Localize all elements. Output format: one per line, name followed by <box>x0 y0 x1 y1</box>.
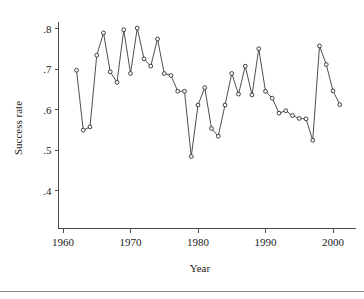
success-rate-line-chart: .4.5.6.7.8 19601970198019902000 Success … <box>0 0 364 299</box>
data-point <box>223 103 227 107</box>
data-series <box>77 28 340 156</box>
data-point <box>277 111 281 115</box>
data-point <box>115 80 119 84</box>
x-tick-label: 1960 <box>52 236 75 248</box>
data-point <box>324 63 328 67</box>
data-point <box>129 72 133 76</box>
x-tick-label: 1990 <box>255 236 278 248</box>
data-point <box>297 117 301 121</box>
data-point <box>142 57 146 61</box>
data-point <box>156 37 160 41</box>
data-point <box>189 155 193 159</box>
data-point <box>237 92 241 96</box>
y-tick-label: .4 <box>43 185 52 197</box>
chart-figure: .4.5.6.7.8 19601970198019902000 Success … <box>0 0 364 299</box>
data-point <box>102 31 106 35</box>
y-tick-label: .5 <box>43 144 52 156</box>
data-point <box>88 125 92 129</box>
series-line-success-rate <box>77 28 340 156</box>
data-markers <box>75 26 342 158</box>
data-point <box>311 138 315 142</box>
data-point <box>162 72 166 76</box>
data-point <box>149 64 153 68</box>
data-point <box>216 134 220 138</box>
data-point <box>250 93 254 97</box>
data-point <box>230 72 234 76</box>
data-point <box>183 89 187 93</box>
data-point <box>135 26 139 30</box>
data-point <box>210 127 214 131</box>
data-point <box>338 103 342 107</box>
data-point <box>176 89 180 93</box>
data-point <box>264 89 268 93</box>
data-point <box>196 103 200 107</box>
data-point <box>284 109 288 113</box>
x-tick-label: 1970 <box>120 236 143 248</box>
data-point <box>331 89 335 93</box>
y-tick-label: .8 <box>43 23 52 35</box>
data-point <box>75 68 79 72</box>
data-point <box>291 114 295 118</box>
data-point <box>95 53 99 57</box>
y-tick-label: .6 <box>43 104 52 116</box>
data-point <box>243 64 247 68</box>
y-tick-label: .7 <box>43 63 52 75</box>
data-point <box>318 44 322 48</box>
data-point <box>270 96 274 100</box>
x-tick-label: 1980 <box>187 236 210 248</box>
data-point <box>122 28 126 32</box>
data-point <box>257 47 261 51</box>
data-point <box>108 70 112 74</box>
x-axis: 19601970198019902000 <box>52 229 356 248</box>
data-point <box>304 117 308 121</box>
footer-divider <box>0 291 364 292</box>
data-point <box>169 74 173 78</box>
data-point <box>81 128 85 132</box>
x-axis-title: Year <box>190 262 211 274</box>
y-axis: .4.5.6.7.8 <box>43 22 58 229</box>
data-point <box>203 86 207 90</box>
x-tick-label: 2000 <box>322 236 345 248</box>
y-axis-title: Success rate <box>12 101 24 155</box>
